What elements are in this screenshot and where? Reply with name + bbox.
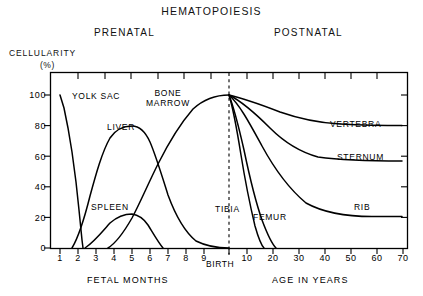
curve-sternum (229, 95, 402, 161)
plot-canvas (0, 0, 423, 296)
curve-bone-marrow (108, 95, 229, 248)
hematopoiesis-figure: HEMATOPOIESIS PRENATAL POSTNATAL CELLULA… (0, 0, 423, 296)
curve-yolk-sac (60, 95, 83, 248)
curve-femur (229, 95, 276, 248)
top-axis-ticks (78, 73, 377, 80)
right-axis-ticks (401, 95, 408, 217)
curve-vertebra (229, 95, 402, 126)
